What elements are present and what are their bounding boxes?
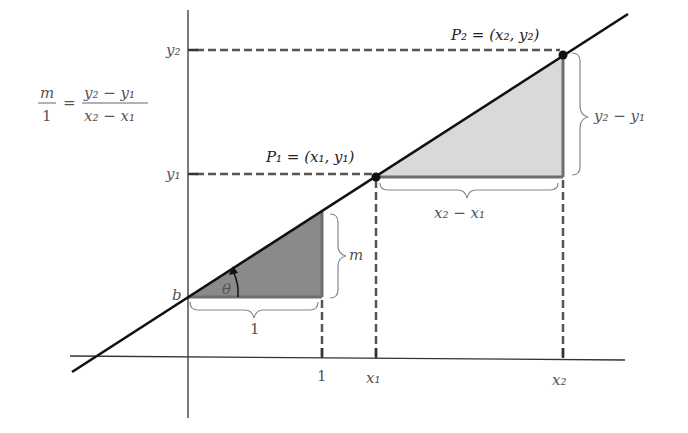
x1-axis-label: x₁ xyxy=(366,369,380,387)
y1-axis-label: y₁ xyxy=(165,165,181,183)
formula-lhs-denominator: 1 xyxy=(42,107,52,125)
p1-label: P₁ = (x₁, y₁) xyxy=(265,148,355,166)
formula-lhs-numerator: m xyxy=(40,84,54,102)
brace-small-rise xyxy=(330,214,346,298)
point-p2 xyxy=(559,51,568,60)
intercept-b-label: b xyxy=(172,286,182,304)
x-axis xyxy=(70,356,625,360)
point-p1 xyxy=(372,173,381,182)
slope-formula: m 1 = y₂ − y₁ x₂ − x₁ xyxy=(38,84,148,125)
formula-rhs-denominator: x₂ − x₁ xyxy=(84,107,135,125)
x2-axis-label: x₂ xyxy=(552,371,566,389)
large-run-label: x₂ − x₁ xyxy=(434,204,485,222)
theta-label: θ xyxy=(222,280,231,298)
brace-large-rise xyxy=(572,53,588,175)
small-rise-label: m xyxy=(349,246,363,264)
slope-diagram: m 1 = y₂ − y₁ x₂ − x₁ P₂ = (x₂, y₂) P₁ =… xyxy=(0,0,688,433)
formula-rhs-numerator: y₂ − y₁ xyxy=(83,84,135,102)
x-1-axis-label: 1 xyxy=(317,367,327,385)
small-run-label: 1 xyxy=(250,320,260,338)
p2-label: P₂ = (x₂, y₂) xyxy=(450,26,540,44)
line-y-equals-mx-plus-b xyxy=(72,14,628,372)
brace-large-run xyxy=(380,183,558,198)
formula-equals: = xyxy=(63,94,76,112)
large-rise-label: y₂ − y₁ xyxy=(593,107,645,125)
y2-axis-label: y₂ xyxy=(165,41,181,59)
brace-small-run xyxy=(190,302,318,318)
